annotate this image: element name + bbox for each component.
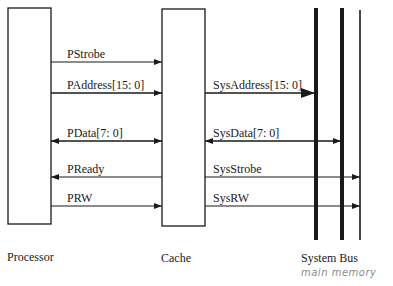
main-memory-annotation: main memory	[301, 267, 376, 278]
system-bus-label: System Bus	[301, 252, 358, 264]
label-pdata: PData[7: 0]	[67, 127, 123, 139]
label-prw: PRW	[67, 192, 92, 204]
label-sysrw: SysRW	[213, 192, 249, 204]
label-paddress: PAddress[15: 0]	[67, 79, 144, 91]
cache-block	[162, 9, 205, 226]
label-pready: PReady	[67, 163, 104, 175]
processor-block	[8, 8, 51, 224]
label-pstrobe: PStrobe	[67, 48, 105, 60]
processor-label: Processor	[7, 251, 54, 263]
cache-label: Cache	[161, 252, 191, 264]
label-sysdata: SysData[7: 0]	[213, 127, 279, 139]
label-sysstrobe: SysStrobe	[213, 163, 262, 175]
block-diagram	[0, 0, 393, 286]
label-sysaddress: SysAddress[15: 0]	[213, 79, 302, 91]
